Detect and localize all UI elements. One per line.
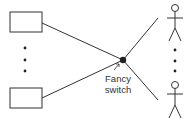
network-diagram: Fancy switch xyxy=(0,0,194,124)
bottom-box xyxy=(10,88,42,108)
top-box xyxy=(10,12,42,32)
top-person-icon xyxy=(167,5,183,42)
link-top-box xyxy=(42,23,123,60)
link-top-person xyxy=(123,18,158,60)
switch-label-line2: switch xyxy=(105,84,131,95)
switch-pointer-arrow xyxy=(114,64,119,70)
switch-label-line1: Fancy xyxy=(105,73,131,84)
bottom-person-icon xyxy=(167,82,183,119)
right-ellipsis-dots xyxy=(174,49,177,73)
connection-lines xyxy=(42,18,158,100)
left-ellipsis-dots xyxy=(24,47,27,73)
switch-node xyxy=(120,57,126,63)
